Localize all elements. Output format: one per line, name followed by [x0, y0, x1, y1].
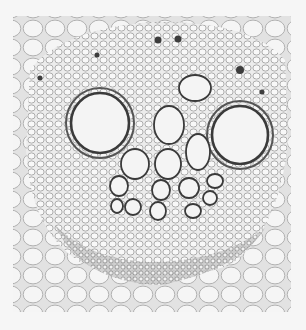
- vessel-1: [212, 106, 268, 164]
- vessel-14: [185, 204, 201, 218]
- vessel-0: [71, 93, 129, 153]
- vessel-9: [179, 178, 199, 198]
- vessel-15: [111, 199, 123, 213]
- vessel-13: [150, 202, 166, 220]
- vessel-8: [152, 180, 170, 200]
- vessel-7: [110, 176, 128, 196]
- vessel-4: [186, 134, 210, 170]
- tissue-cross-section: [0, 0, 306, 330]
- vessel-2: [179, 75, 211, 101]
- vessel-3: [154, 106, 184, 144]
- micrograph-image: [0, 0, 306, 330]
- vessel-11: [203, 191, 217, 205]
- vessel-5: [121, 149, 149, 179]
- vessel-12: [125, 199, 141, 215]
- vessel-10: [207, 174, 223, 188]
- vessel-6: [155, 149, 181, 179]
